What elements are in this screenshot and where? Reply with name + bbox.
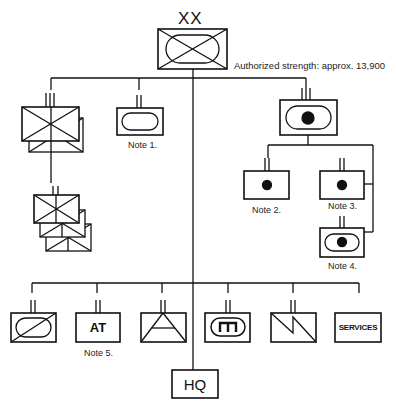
brigade-symbol: [22, 93, 83, 152]
hq-text: HQ: [172, 370, 218, 398]
battalion-symbol: [34, 186, 91, 251]
artillery-battalion-a-symbol: [244, 158, 289, 199]
strength-label: Authorized strength: approx. 13,900: [234, 60, 385, 71]
recon-symbol: [117, 95, 163, 135]
note-4-label: Note 4.: [328, 261, 357, 271]
artillery-battalion-c-symbol: [320, 216, 364, 257]
note-3-label: Note 3.: [328, 201, 357, 211]
artillery-battalion-b-symbol: [320, 158, 364, 199]
support-armored-cavalry-symbol: [11, 300, 56, 342]
note-1-label: Note 1.: [128, 140, 157, 150]
echelon-label: XX: [178, 9, 203, 29]
artillery-regiment-symbol: [280, 88, 337, 135]
division-symbol: [158, 29, 227, 69]
support-signal-symbol: [271, 300, 316, 342]
support-maintenance-symbol: [205, 300, 250, 342]
note-5-label: Note 5.: [84, 348, 113, 358]
services-text: SERVICES: [335, 313, 381, 342]
note-2-label: Note 2.: [252, 205, 281, 215]
anti-tank-text: AT: [76, 313, 120, 342]
support-engineer-symbol: [141, 300, 186, 342]
